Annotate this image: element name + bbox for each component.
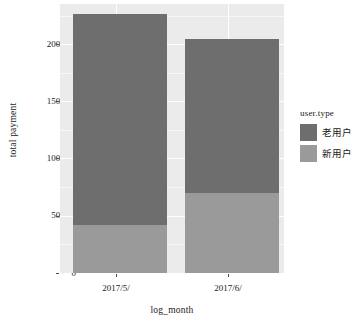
bar-segment-xinyonghu-2017-6[interactable]	[185, 193, 279, 273]
y-tick-mark-200000	[56, 44, 59, 45]
legend: user.type 老用户 新用户	[300, 108, 360, 164]
x-axis-title: log_month	[60, 305, 284, 315]
y-tick-mark-100000	[56, 158, 59, 159]
legend-label-xinyonghu: 新用户	[322, 146, 352, 160]
bar-2017-6[interactable]	[185, 39, 279, 273]
y-tick-mark-150000	[56, 101, 59, 102]
bar-segment-laoyonghu-2017-6[interactable]	[185, 39, 279, 193]
bar-2017-5[interactable]	[73, 14, 167, 273]
legend-item-laoyonghu[interactable]: 老用户	[300, 122, 360, 142]
legend-key-xinyonghu	[300, 145, 317, 162]
x-tick-mark-2017-6	[228, 274, 229, 277]
chart-container: total payment 200,000 150,000 100,000 50…	[0, 0, 361, 325]
bar-segment-laoyonghu-2017-5[interactable]	[73, 14, 167, 225]
plot-panel	[60, 4, 284, 273]
bar-segment-xinyonghu-2017-5[interactable]	[73, 225, 167, 273]
y-tick-mark-50000	[56, 216, 59, 217]
legend-key-laoyonghu	[300, 124, 317, 141]
x-tick-label-2017-5: 2017/5/	[71, 283, 161, 293]
y-tick-mark-0	[56, 273, 59, 274]
legend-item-xinyonghu[interactable]: 新用户	[300, 143, 360, 163]
legend-title: user.type	[300, 108, 360, 118]
legend-label-laoyonghu: 老用户	[322, 125, 352, 139]
y-axis-title: total payment	[8, 70, 24, 190]
x-tick-mark-2017-5	[116, 274, 117, 277]
x-tick-label-2017-6: 2017/6/	[183, 283, 273, 293]
